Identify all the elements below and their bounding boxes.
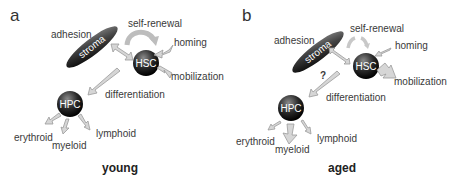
- self-renewal-label: self-renewal: [350, 23, 404, 34]
- lymphoid-arrow: [301, 120, 311, 134]
- differentiation-label: differentiation: [105, 89, 165, 100]
- self-renewal-label: self-renewal: [128, 18, 182, 29]
- erythroid-arrow: [268, 121, 281, 130]
- question-mark: ?: [320, 70, 326, 81]
- condition-label: young: [102, 161, 138, 175]
- lymphoid-arrow: [78, 114, 90, 130]
- mobilization-label: mobilization: [394, 76, 447, 87]
- adhesion-label: adhesion: [274, 35, 315, 46]
- erythroid-arrow: [45, 113, 61, 124]
- erythroid-label: erythroid: [236, 136, 275, 147]
- hsc-label: HSC: [135, 58, 156, 69]
- stroma: stroma: [288, 26, 348, 78]
- panel-letter: b: [242, 6, 251, 25]
- adhesion-arrow: [111, 44, 133, 60]
- adhesion-arrow: [329, 48, 350, 64]
- differentiation-label: differentiation: [326, 92, 386, 103]
- lymphoid-label: lymphoid: [96, 128, 136, 139]
- myeloid-arrow: [61, 119, 69, 134]
- myeloid-label: myeloid: [275, 144, 309, 155]
- myeloid-arrow: [283, 124, 297, 144]
- panel-aged: b stroma adhesion self-renewal HSC homin…: [236, 6, 447, 175]
- lymphoid-label: lymphoid: [317, 133, 357, 144]
- homing-arrow: [375, 48, 391, 56]
- hsc-label: HSC: [355, 61, 376, 72]
- self-renewal-arrow: [348, 38, 355, 48]
- erythroid-label: erythroid: [14, 132, 53, 143]
- hpc-label: HPC: [59, 99, 80, 110]
- hpc-label: HPC: [280, 103, 301, 114]
- panel-young: a stroma adhesion self-renewal HSC homin…: [10, 6, 224, 175]
- hsc-aging-diagram: a stroma adhesion self-renewal HSC homin…: [0, 0, 456, 182]
- homing-arrow: [154, 45, 173, 58]
- panel-letter: a: [10, 6, 20, 25]
- condition-label: aged: [328, 161, 356, 175]
- adhesion-label: adhesion: [51, 29, 92, 40]
- homing-label: homing: [395, 40, 428, 51]
- homing-label: homing: [174, 37, 207, 48]
- mobilization-arrow: [157, 66, 172, 78]
- myeloid-label: myeloid: [52, 140, 86, 151]
- mobilization-label: mobilization: [171, 71, 224, 82]
